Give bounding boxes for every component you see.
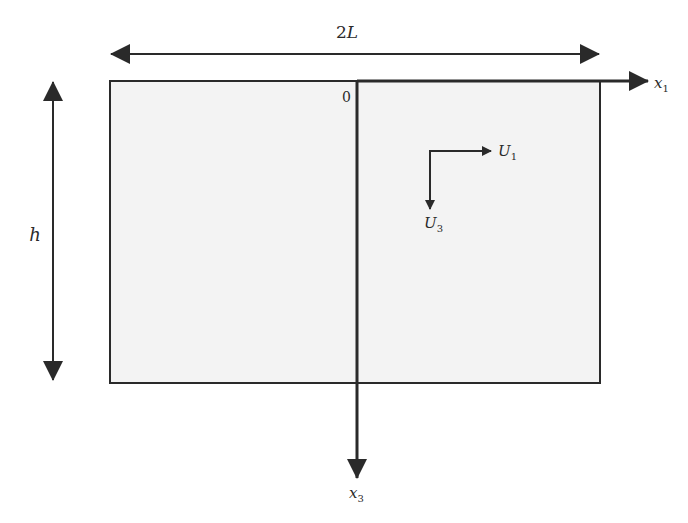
domain-rectangle: [110, 81, 600, 383]
width-label: 2L: [336, 22, 358, 42]
diagram-canvas: 2L h x1 x3 0 U1 U3: [0, 0, 688, 523]
height-label: h: [29, 224, 41, 245]
origin-label: 0: [342, 89, 351, 105]
x1-axis-label: x1: [654, 74, 669, 94]
x3-axis-label: x3: [349, 484, 364, 504]
